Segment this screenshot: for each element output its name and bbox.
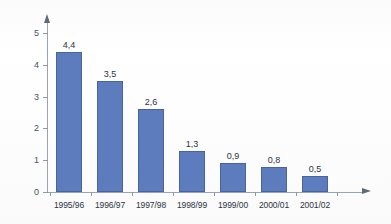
bar-chart: 0 1 2 3 4 5 4,41995/963,51996/972,61997/… — [0, 0, 391, 224]
x-axis-label-2000-01: 2000/01 — [251, 200, 297, 210]
y-tick-label-1: 1 — [17, 156, 39, 165]
bar-1998-99 — [179, 151, 205, 192]
bar-1999-00 — [220, 163, 246, 192]
y-axis-arrow-icon — [44, 14, 50, 23]
bar-1995-96 — [56, 52, 82, 192]
x-tick-1 — [91, 192, 92, 196]
bar-value-label-1996-97: 3,5 — [93, 69, 127, 79]
y-tick-1 — [43, 160, 48, 161]
x-axis-line — [47, 192, 363, 193]
bar-value-label-1997-98: 2,6 — [134, 97, 168, 107]
y-tick-5 — [43, 33, 48, 34]
y-tick-2 — [43, 128, 48, 129]
bar-1997-98 — [138, 109, 164, 192]
y-axis-line — [47, 22, 48, 193]
x-tick-0 — [50, 192, 51, 196]
bar-value-label-2000-01: 0,8 — [257, 155, 291, 165]
bar-value-label-2001-02: 0,5 — [298, 164, 332, 174]
x-axis-label-2001-02: 2001/02 — [292, 200, 338, 210]
y-tick-label-5: 5 — [17, 29, 39, 38]
bar-value-label-1995-96: 4,4 — [52, 40, 86, 50]
y-tick-0 — [43, 192, 48, 193]
bar-value-label-1999-00: 0,9 — [216, 151, 250, 161]
y-tick-label-4: 4 — [17, 61, 39, 70]
x-tick-6 — [296, 192, 297, 196]
x-tick-5 — [255, 192, 256, 196]
x-axis-label-1996-97: 1996/97 — [87, 200, 133, 210]
x-axis-label-1998-99: 1998/99 — [169, 200, 215, 210]
y-tick-label-2: 2 — [17, 124, 39, 133]
bar-2001-02 — [302, 176, 328, 192]
y-tick-4 — [43, 65, 48, 66]
x-tick-4 — [214, 192, 215, 196]
y-tick-label-0: 0 — [17, 188, 39, 197]
x-axis-label-1995-96: 1995/96 — [46, 200, 92, 210]
x-axis-label-1999-00: 1999/00 — [210, 200, 256, 210]
x-axis-arrow-icon — [362, 188, 371, 194]
y-tick-3 — [43, 97, 48, 98]
bar-2000-01 — [261, 167, 287, 192]
x-axis-label-1997-98: 1997/98 — [128, 200, 174, 210]
x-tick-2 — [132, 192, 133, 196]
x-tick-3 — [173, 192, 174, 196]
bar-1996-97 — [97, 81, 123, 192]
bar-value-label-1998-99: 1,3 — [175, 139, 209, 149]
x-tick-end — [337, 192, 338, 196]
y-tick-label-3: 3 — [17, 93, 39, 102]
